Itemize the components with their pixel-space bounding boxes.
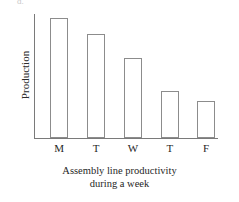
caption-line-1: Assembly line productivity <box>0 164 239 177</box>
x-tick-label-friday: F <box>194 141 218 155</box>
x-tick-label-monday: M <box>47 141 71 155</box>
figure-caption: Assembly line productivity during a week <box>0 164 239 190</box>
bar-friday <box>197 101 215 138</box>
bar-thursday <box>161 91 179 138</box>
figure-item-letter: d. <box>17 0 24 6</box>
y-axis-title: Production <box>18 33 32 117</box>
bar-chart-figure: d. Production MTWTF Assembly line produc… <box>0 0 239 202</box>
x-tick-label-thursday: T <box>158 141 182 155</box>
plot-area <box>34 14 218 138</box>
x-axis-line <box>34 138 218 139</box>
bar-wednesday <box>124 58 143 138</box>
bar-monday <box>50 18 68 138</box>
caption-line-2: during a week <box>0 177 239 190</box>
x-axis-tick-labels: MTWTF <box>34 141 218 155</box>
bar-tuesday <box>87 34 105 138</box>
x-tick-label-tuesday: T <box>84 141 108 155</box>
x-tick-label-wednesday: W <box>121 141 145 155</box>
